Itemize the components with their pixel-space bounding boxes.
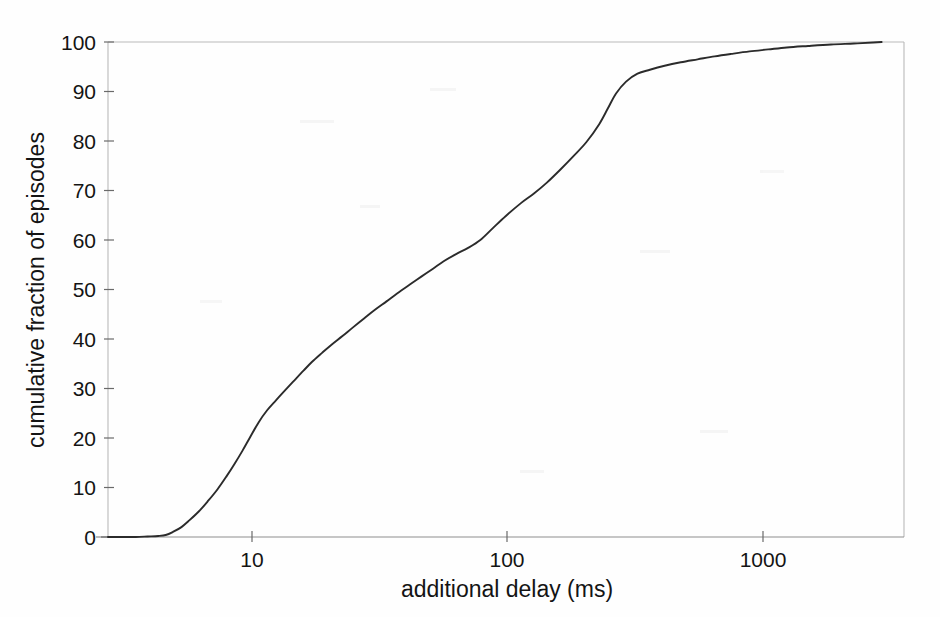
x-tick-label: 10 (240, 548, 263, 571)
x-tick-label: 1000 (740, 548, 787, 571)
y-tick-label: 70 (73, 179, 96, 202)
y-tick-label: 60 (73, 229, 96, 252)
y-tick-label: 80 (73, 130, 96, 153)
y-tick-label: 10 (73, 476, 96, 499)
x-tick-label: 100 (489, 548, 524, 571)
chart-figure: 0 10 20 30 40 50 60 70 80 90 100 10 100 … (0, 0, 940, 617)
y-tick-label: 100 (61, 31, 96, 54)
figure-background (0, 0, 940, 617)
cumulative-distribution-chart: 0 10 20 30 40 50 60 70 80 90 100 10 100 … (0, 0, 940, 617)
y-tick-label: 40 (73, 328, 96, 351)
y-tick-label: 30 (73, 377, 96, 400)
y-tick-label: 0 (84, 526, 96, 549)
y-axis-title: cumulative fraction of episodes (23, 132, 49, 448)
y-tick-label: 90 (73, 80, 96, 103)
y-tick-label: 20 (73, 427, 96, 450)
y-tick-label: 50 (73, 278, 96, 301)
x-axis-title: additional delay (ms) (401, 576, 613, 602)
